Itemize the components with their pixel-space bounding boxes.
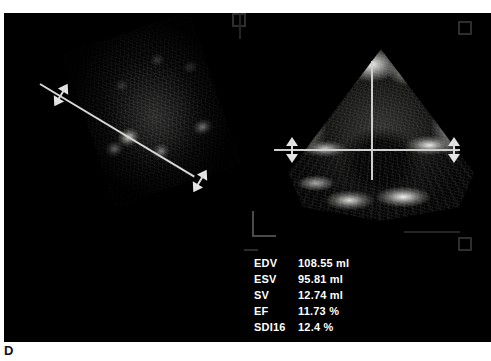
figure-caption-label: D (4, 343, 13, 359)
arrow-head-down (188, 181, 203, 195)
measurement-label-sdi16: SDI16 (254, 319, 298, 335)
readout-tick-marker (244, 249, 258, 251)
slice-vignette (64, 13, 241, 206)
caliper-arrow-left-icon[interactable] (286, 137, 298, 163)
measurement-value-sdi16: 12.4 % (298, 319, 333, 335)
readout-bracket-vertical (252, 211, 254, 237)
short-axis-slice-panel[interactable] (4, 13, 244, 233)
top-right-corner-marker[interactable] (458, 21, 472, 35)
bottom-right-corner-marker[interactable] (458, 237, 472, 251)
vertical-measurement-line[interactable] (371, 61, 373, 180)
measurement-value-ef: 11.73 % (298, 303, 339, 319)
horizontal-measurement-line[interactable] (274, 149, 460, 151)
caliper-arrow-right-icon[interactable] (448, 137, 460, 163)
measurement-label-edv: EDV (254, 255, 298, 271)
measurement-value-esv: 95.81 ml (298, 271, 343, 287)
top-marker-line (239, 13, 241, 39)
arrow-head-down (448, 154, 460, 163)
ultrasound-canvas: EDV 108.55 ml ESV 95.81 ml SV 12.74 ml E… (4, 13, 491, 342)
arrow-head-down (286, 154, 298, 163)
measurement-label-sv: SV (254, 287, 298, 303)
sector-scan-image (288, 49, 474, 221)
apical-sector-scan-panel[interactable] (272, 13, 491, 233)
measurement-label-ef: EF (254, 303, 298, 319)
measurement-row-edv: EDV 108.55 ml (254, 255, 349, 271)
readout-bracket-horizontal (252, 235, 276, 237)
tomographic-slice-image (64, 13, 241, 206)
arrow-head-down (49, 95, 64, 109)
measurement-value-sv: 12.74 ml (298, 287, 343, 303)
sector-scanline-fan (288, 49, 474, 221)
measurement-value-edv: 108.55 ml (298, 255, 349, 271)
measurement-row-sv: SV 12.74 ml (254, 287, 349, 303)
bottom-right-marker-line (404, 231, 460, 233)
figure-page: EDV 108.55 ml ESV 95.81 ml SV 12.74 ml E… (0, 0, 491, 361)
caliper-arrow-upper-left-icon[interactable] (49, 81, 73, 109)
measurement-label-esv: ESV (254, 271, 298, 287)
measurement-row-esv: ESV 95.81 ml (254, 271, 349, 287)
measurement-row-ef: EF 11.73 % (254, 303, 349, 319)
measurement-row-sdi16: SDI16 12.4 % (254, 319, 349, 335)
measurement-readout: EDV 108.55 ml ESV 95.81 ml SV 12.74 ml E… (254, 255, 349, 335)
